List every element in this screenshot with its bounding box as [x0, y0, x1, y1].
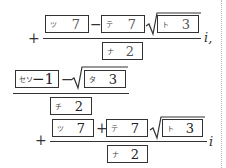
- answer-box-tsu[interactable]: ツ 7: [52, 119, 94, 137]
- dotted-divider: [221, 0, 222, 168]
- imaginary-unit: i: [209, 134, 213, 149]
- answer-box-to[interactable]: ト 3: [162, 119, 203, 137]
- box-value: 3: [182, 16, 190, 33]
- box-value: 3: [109, 71, 117, 88]
- box-label: テ: [106, 19, 113, 29]
- answer-box-ta[interactable]: タ 3: [84, 70, 126, 88]
- box-value: 2: [75, 98, 83, 115]
- box-label: ツ: [57, 123, 64, 133]
- box-value: 2: [131, 146, 139, 163]
- fraction-bar: [13, 93, 129, 94]
- minus-sign: −: [90, 17, 102, 31]
- box-value: 7: [131, 120, 139, 137]
- plus-sign: +: [28, 31, 40, 45]
- fraction-bar: [50, 141, 207, 142]
- box-label: ト: [162, 19, 169, 29]
- box-value: 7: [128, 16, 136, 33]
- answer-box-chi[interactable]: チ 2: [50, 97, 92, 115]
- answer-box-na[interactable]: ナ 2: [102, 42, 143, 60]
- box-value: 7: [77, 120, 85, 137]
- box-value: 7: [72, 16, 80, 33]
- box-label: ナ: [112, 149, 119, 159]
- answer-box-te[interactable]: テ 7: [106, 119, 148, 137]
- answer-box-te[interactable]: テ 7: [101, 15, 145, 33]
- box-label: ツ: [50, 19, 57, 29]
- answer-box-tsu[interactable]: ツ 7: [45, 15, 89, 33]
- answer-box-to[interactable]: ト 3: [157, 15, 199, 33]
- answer-box-na[interactable]: ナ 2: [107, 145, 148, 163]
- box-label: テ: [111, 123, 118, 133]
- box-value: 3: [186, 120, 194, 137]
- box-label: チ: [55, 101, 62, 111]
- box-label: ナ: [107, 46, 114, 56]
- plus-sign: +: [35, 133, 47, 147]
- fraction-bar: [43, 38, 201, 39]
- imaginary-unit: i,: [204, 30, 212, 45]
- box-label: タ: [89, 74, 96, 84]
- box-value: 2: [126, 43, 134, 60]
- box-value: −1: [32, 71, 54, 88]
- box-label: ト: [167, 123, 174, 133]
- answer-box-seso[interactable]: セソ −1: [15, 70, 59, 88]
